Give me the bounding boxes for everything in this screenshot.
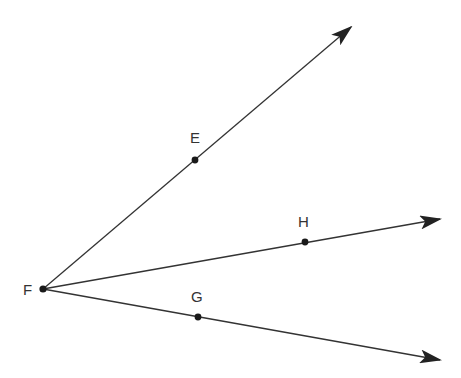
ray-fg xyxy=(43,289,440,360)
point-f xyxy=(39,285,46,292)
rays xyxy=(43,27,440,360)
angle-rays-diagram: F E H G xyxy=(0,0,461,378)
point-labels: F E H G xyxy=(23,129,309,305)
label-g: G xyxy=(191,288,203,305)
point-e xyxy=(192,157,199,164)
ray-fh xyxy=(43,219,440,289)
label-e: E xyxy=(190,129,200,146)
label-h: H xyxy=(298,213,309,230)
point-h xyxy=(302,239,309,246)
point-g xyxy=(195,314,202,321)
label-f: F xyxy=(23,281,32,298)
